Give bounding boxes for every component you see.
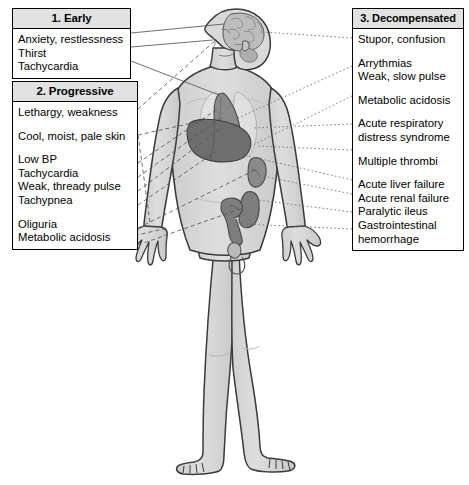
stage-body-progressive: Lethargy, weakness Cool, moist, pale ski… [13, 102, 137, 249]
symptom-item: Acute renal failure [358, 192, 463, 206]
ear-icon [242, 41, 249, 51]
legs [177, 250, 295, 474]
symptom-item: Multiple thrombi [358, 155, 463, 169]
symptom-item: distress syndrome [358, 131, 463, 145]
symptom-item: Weak, thready pulse [18, 180, 137, 194]
symptom-item: Tachycardia [18, 167, 137, 181]
symptom-item: Low BP [18, 153, 137, 167]
stage-header-early: 1. Early [13, 9, 130, 29]
symptom-item: hemorrhage [358, 233, 463, 247]
stage-box-decompensated: 3. Decompensated Stupor, confusion Arryt… [352, 8, 464, 251]
symptom-item: Weak, slow pulse [358, 70, 463, 84]
symptom-item: Gastrointestinal [358, 219, 463, 233]
symptom-item: Arrythmias [358, 57, 463, 71]
symptom-item: Acute respiratory [358, 117, 463, 131]
symptom-item: Stupor, confusion [358, 33, 463, 47]
symptom-item: Cool, moist, pale skin [18, 130, 137, 144]
symptom-item: Acute liver failure [358, 178, 463, 192]
stage-box-early: 1. Early Anxiety, restlessness Thirst Ta… [12, 8, 131, 79]
symptom-item: Tachypnea [18, 194, 137, 208]
stage-header-decompensated: 3. Decompensated [353, 9, 463, 29]
symptom-item: Paralytic ileus [358, 205, 463, 219]
kidney-organ [248, 157, 266, 187]
symptom-item: Metabolic acidosis [18, 231, 137, 245]
symptom-item: Tachycardia [18, 60, 130, 74]
symptom-item: Oliguria [18, 218, 137, 232]
stage-header-progressive: 2. Progressive [13, 82, 137, 102]
stage-body-decompensated: Stupor, confusion Arrythmias Weak, slow … [353, 29, 463, 250]
stage-body-early: Anxiety, restlessness Thirst Tachycardia [13, 29, 130, 78]
symptom-item: Lethargy, weakness [18, 106, 137, 120]
symptom-item: Metabolic acidosis [358, 94, 463, 108]
stage-box-progressive: 2. Progressive Lethargy, weakness Cool, … [12, 81, 138, 250]
shock-stages-diagram: 1. Early Anxiety, restlessness Thirst Ta… [0, 0, 469, 485]
symptom-item: Anxiety, restlessness [18, 33, 130, 47]
symptom-item: Thirst [18, 47, 130, 61]
